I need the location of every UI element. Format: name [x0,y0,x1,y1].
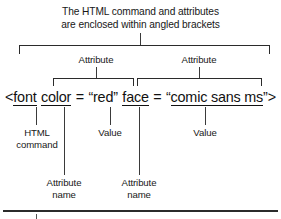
code-attr2-value: comic sans ms [171,89,264,106]
attribute-1-connector-stem [96,67,97,78]
label-value-1: Value [84,127,136,139]
attr1-value-connector [110,107,111,125]
diagram-title-line-1: The HTML command and attributes [0,5,281,18]
attribute-1-bracket-left-arm [53,78,54,86]
title-connector-stem [140,33,141,45]
attribute-2-bracket-left-arm [137,78,138,86]
label-attribute-2: Attribute [163,54,235,66]
html-tag-anatomy-diagram: The HTML command and attributes are encl… [0,0,281,219]
attribute-1-bracket-right-arm [133,78,134,86]
bottom-divider [3,210,278,212]
label-value-2: Value [179,127,231,139]
code-quote-open-2: “ [166,89,171,105]
attribute-2-bracket-right-arm [261,78,262,86]
code-attr1-name: color [41,89,71,106]
bottom-divider-tick [36,214,37,219]
code-close-angle: > [268,89,276,105]
attr2-name-connector [139,107,140,175]
tag-name-connector [36,107,37,125]
top-bracket-left-arm [19,45,20,54]
label-attribute-name-2: Attribute name [110,177,168,200]
label-html-command: HTML command [8,127,66,150]
code-equals-1: = [76,89,84,105]
label-attribute-1: Attribute [60,54,132,66]
attribute-1-bracket-span [53,78,134,79]
diagram-title-line-2: are enclosed within angled brackets [0,18,281,31]
code-attr1-value: red [93,89,113,105]
code-tag-name: font [13,89,36,106]
top-bracket-right-arm [269,45,270,54]
top-bracket-span [19,45,270,46]
code-line: <font color = “red” face = “comic sans m… [0,88,281,106]
diagram-title: The HTML command and attributes are encl… [0,5,281,31]
attribute-2-bracket-span [137,78,262,79]
attr2-value-connector [205,107,206,125]
code-attr2-name: face [122,89,148,106]
label-attribute-name-1: Attribute name [35,177,93,200]
attribute-2-connector-stem [199,67,200,78]
